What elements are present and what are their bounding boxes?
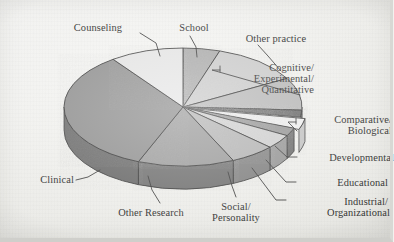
label-social-line2: Personality [202,212,270,223]
label-cognitive-line1: Cognitive/ [224,62,314,73]
label-counseling: Counseling [58,22,138,33]
label-other-practice: Other practice [230,33,322,44]
label-developmental: Developmental [302,152,394,163]
label-cognitive-line2: Experimental/ [224,73,314,84]
label-industrial-line2: Organizational [290,207,390,218]
label-industrial-line1: Industrial/ [290,196,388,207]
label-clinical: Clinical [14,174,74,185]
label-other-research: Other Research [104,207,198,218]
label-cognitive-line3: Quantitative [224,84,314,95]
label-educational: Educational [300,177,388,188]
label-comparative-line1: Comparative/ [300,114,392,125]
label-comparative-line2: Biological [306,125,392,136]
label-school: School [168,22,220,33]
label-social-line1: Social/ [208,201,264,212]
